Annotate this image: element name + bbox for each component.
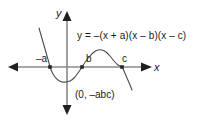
x-axis-label: x [154,62,160,73]
root-marker [48,65,52,69]
root-marker [120,65,124,69]
equation-label: y = –(x + a)(x – b)(x – c) [77,31,186,41]
root-c-label: c [122,54,127,64]
root-marker [80,65,84,69]
y-axis-label: y [56,8,62,19]
root-a-label: –a [36,54,47,64]
y-intercept-label: (0, –abc) [75,90,114,100]
root-b-label: b [86,54,92,64]
x-axis-right-arrow-icon [141,63,152,72]
y-axis-bottom-arrow-icon [63,105,72,115]
graph-canvas [0,0,206,125]
x-axis-left-arrow-icon [8,63,18,72]
y-axis-top-arrow-icon [63,11,72,21]
cubic-graph-figure: y x y = –(x + a)(x – b)(x – c) –a b c (0… [0,0,206,125]
